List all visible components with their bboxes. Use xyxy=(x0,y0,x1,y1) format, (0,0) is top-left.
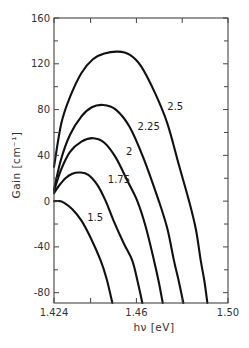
curve-label: 2 xyxy=(126,146,132,157)
curve-labels: 1.51.7522.252.5 xyxy=(87,101,183,223)
y-tick-label: -80 xyxy=(34,287,50,298)
y-tick-label: 0 xyxy=(44,196,50,207)
curve-2-25 xyxy=(54,105,183,303)
y-tick-label: 120 xyxy=(31,58,50,69)
curve-label: 2.25 xyxy=(138,121,160,132)
curve-2-5 xyxy=(54,52,207,303)
curve-label: 1.5 xyxy=(87,212,103,223)
x-tick-label: 1.50 xyxy=(217,307,239,318)
y-axis-label: Gain [cm⁻¹] xyxy=(10,132,22,199)
axis-ticks xyxy=(54,18,228,303)
x-tick-label: 1.46 xyxy=(125,307,147,318)
curve-1-75 xyxy=(54,172,142,303)
gain-curves xyxy=(54,52,207,303)
curve-label: 2.5 xyxy=(167,101,183,112)
y-tick-label: -40 xyxy=(34,241,50,252)
y-tick-label: 80 xyxy=(37,104,50,115)
gain-chart: 1.51.7522.252.5 16012080400-40-801.4241.… xyxy=(0,0,249,348)
y-tick-label: 40 xyxy=(37,150,50,161)
plot-frame xyxy=(54,18,228,303)
y-tick-label: 160 xyxy=(31,13,50,24)
curve-label: 1.75 xyxy=(108,174,130,185)
x-tick-label: 1.424 xyxy=(40,307,69,318)
curve-2 xyxy=(54,138,163,303)
curve-1-5 xyxy=(54,201,112,303)
x-axis-label: hν [eV] xyxy=(133,321,174,333)
